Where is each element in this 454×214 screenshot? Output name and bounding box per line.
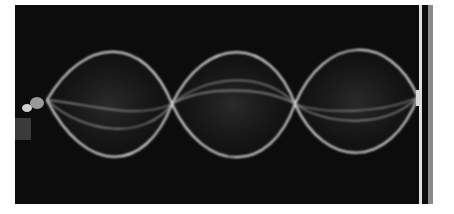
vibrator-driver bbox=[15, 97, 44, 140]
fixed-end-rod bbox=[416, 5, 433, 204]
standing-wave-graphic bbox=[15, 5, 433, 204]
standing-wave-photo bbox=[15, 5, 433, 204]
wave-envelope-fill bbox=[47, 51, 418, 157]
